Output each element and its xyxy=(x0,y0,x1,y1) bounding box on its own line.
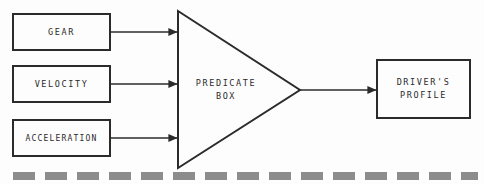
diagram-canvas xyxy=(0,0,484,184)
output-box-drivers-profile[interactable] xyxy=(377,60,470,118)
diagram-root: GEAR VELOCITY ACCELERATION PREDICATE BOX… xyxy=(0,0,484,184)
input-box-acceleration[interactable] xyxy=(13,120,110,156)
input-box-velocity[interactable] xyxy=(13,66,110,102)
input-box-gear[interactable] xyxy=(13,14,110,50)
